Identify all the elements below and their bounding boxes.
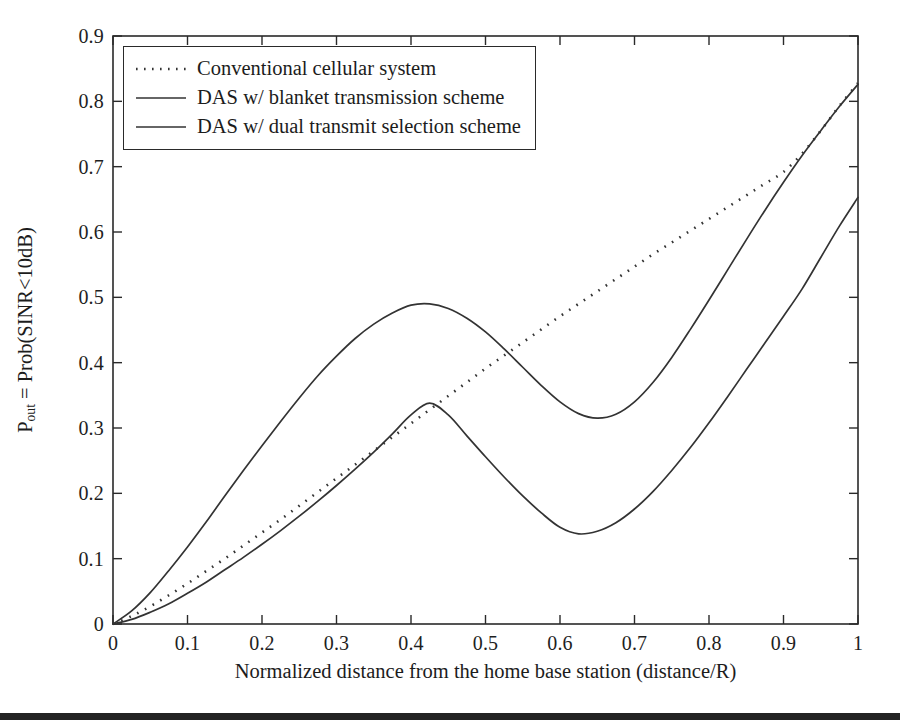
y-tick-label: 0.7 [58,157,104,177]
y-tick-label: 0.9 [58,26,104,46]
page-scan-edge-bar [0,713,900,720]
x-tick-label: 1 [853,633,863,653]
legend-box: Conventional cellular systemDAS w/ blank… [123,46,536,150]
outage-probability-figure: 00.10.20.30.40.50.60.70.80.91 00.10.20.3… [0,0,900,727]
y-axis-title-subscript: out [23,404,38,421]
y-tick-label: 0.6 [58,222,104,242]
x-tick-label: 0.4 [398,633,424,653]
x-tick-label: 0.6 [547,633,573,653]
y-tick-label: 0 [58,614,104,634]
x-tick-label: 0 [108,633,118,653]
x-tick-label: 0.5 [473,633,499,653]
legend-solid-line-icon [134,91,188,105]
x-tick-label: 0.1 [175,633,201,653]
y-tick-label: 0.1 [58,549,104,569]
x-tick-label: 0.2 [249,633,275,653]
x-axis-title: Normalized distance from the home base s… [113,660,858,683]
y-axis-title-rest: = Prob(SINR<10dB) [14,227,36,404]
y-tick-label: 0.8 [58,91,104,111]
x-tick-label: 0.8 [696,633,722,653]
y-axis-title: Pout = Prob(SINR<10dB) [14,227,39,433]
y-tick-label: 0.3 [58,418,104,438]
y-tick-label: 0.4 [58,353,104,373]
legend-item-label: DAS w/ blanket transmission scheme [197,86,504,109]
legend-item[interactable]: DAS w/ blanket transmission scheme [134,83,521,112]
x-tick-label: 0.3 [324,633,350,653]
x-tick-label: 0.9 [771,633,797,653]
legend-item[interactable]: DAS w/ dual transmit selection scheme [134,112,521,141]
legend-item[interactable]: Conventional cellular system [134,54,521,83]
y-tick-label: 0.2 [58,483,104,503]
y-axis-title-main: P [14,421,36,432]
y-tick-label: 0.5 [58,287,104,307]
legend-item-label: DAS w/ dual transmit selection scheme [197,115,521,138]
legend-dotted-line-icon [134,62,188,76]
legend-item-label: Conventional cellular system [197,57,436,80]
legend-solid-line-icon [134,120,188,134]
x-tick-label: 0.7 [622,633,648,653]
